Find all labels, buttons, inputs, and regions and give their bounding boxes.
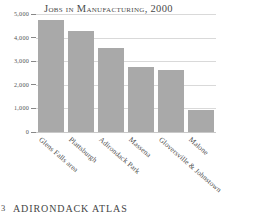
y-axis-tick: 1,000 <box>14 103 36 113</box>
y-axis-tick-label: 4,000 <box>14 34 29 41</box>
bar <box>158 70 184 132</box>
y-axis-tick: 3,000 <box>14 56 36 66</box>
plot-area <box>36 14 216 132</box>
manufacturing-jobs-figure: Jobs in Manufacturing, 2000 5,000 4,000 … <box>0 0 259 217</box>
x-axis: Glens Falls areaPlattsburghAdirondack Pa… <box>0 132 259 212</box>
bar <box>38 20 64 132</box>
y-axis-tick-label: 1,000 <box>14 104 29 111</box>
y-axis: 5,000 4,000 3,000 2,000 1,000 0 <box>0 0 36 140</box>
x-axis-label: Massena <box>127 135 153 159</box>
chart-title: Jobs in Manufacturing, 2000 <box>44 3 244 14</box>
bar <box>188 110 214 132</box>
footer-title: ADIRONDACK ATLAS <box>13 203 128 214</box>
y-axis-tick-label: 2,000 <box>14 81 29 88</box>
bar <box>68 31 94 132</box>
bar <box>128 67 154 132</box>
y-axis-tick: 5,000 <box>14 9 36 19</box>
y-axis-tick-label: 3,000 <box>14 57 29 64</box>
page-footer: 3 ADIRONDACK ATLAS <box>0 203 259 217</box>
gridline <box>36 14 216 15</box>
bar <box>98 48 124 132</box>
y-axis-tick: 4,000 <box>14 33 36 43</box>
y-axis-tick: 2,000 <box>14 80 36 90</box>
y-axis-tick-label: 5,000 <box>14 10 29 17</box>
page-number: 3 <box>1 203 5 213</box>
x-axis-label: Malone <box>187 135 210 157</box>
